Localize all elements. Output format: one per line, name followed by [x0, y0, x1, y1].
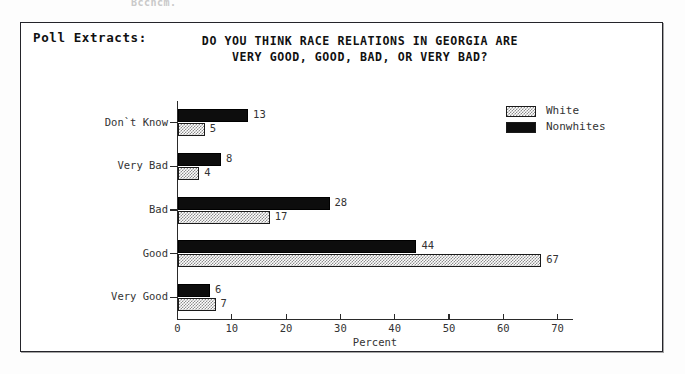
x-axis-tick: [340, 314, 341, 319]
legend-label-white: White: [546, 104, 579, 117]
bar-white: [178, 254, 542, 267]
legend-swatch-white-icon: [506, 106, 536, 117]
legend-label-nonwhites: Nonwhites: [546, 120, 606, 133]
bar-value-label-nonwhites: 8: [226, 152, 232, 164]
x-axis-tick: [557, 314, 558, 319]
x-axis-tick-label: 30: [334, 322, 347, 334]
bar-nonwhites: [178, 240, 417, 253]
bar-nonwhites: [178, 197, 330, 210]
bar-value-label-nonwhites: 6: [215, 283, 221, 295]
bar-nonwhites: [178, 109, 249, 122]
y-axis-tick: [170, 166, 177, 167]
bar-value-label-nonwhites: 13: [253, 108, 266, 120]
bar-value-label-nonwhites: 44: [421, 239, 434, 251]
legend-swatch-nonwhites-icon: [506, 122, 536, 133]
x-axis-tick: [394, 314, 395, 319]
bar-value-label-white: 67: [546, 253, 559, 265]
y-axis-tick: [170, 209, 177, 210]
bar-value-label-white: 5: [210, 122, 216, 134]
y-axis-tick-label: Very Bad: [117, 159, 168, 171]
y-axis-tick-label: Bad: [149, 203, 168, 215]
bar-value-label-white: 17: [275, 210, 288, 222]
x-axis-title: Percent: [177, 336, 573, 348]
y-axis-tick-label: Don`t Know: [105, 116, 168, 128]
y-axis-tick-label: Very Good: [111, 290, 168, 302]
x-axis-tick: [231, 314, 232, 319]
y-axis-tick: [170, 253, 177, 254]
y-axis-tick-label: Good: [143, 247, 168, 259]
x-axis-tick-label: 60: [497, 322, 510, 334]
bar-chart-plot: Percent 010203040506070Very Good67Good44…: [0, 0, 685, 374]
x-axis-tick: [448, 314, 449, 319]
bar-value-label-white: 7: [221, 297, 227, 309]
x-axis-tick-label: 40: [388, 322, 401, 334]
bar-white: [178, 123, 205, 136]
bar-white: [178, 211, 270, 224]
y-axis-tick: [170, 122, 177, 123]
x-axis-tick-label: 70: [551, 322, 564, 334]
y-axis-tick: [170, 297, 177, 298]
bar-white: [178, 298, 216, 311]
x-axis-tick-label: 50: [443, 322, 456, 334]
x-axis-line: [177, 319, 573, 320]
bar-nonwhites: [178, 153, 221, 166]
figure-page: Bccncm. Poll Extracts: DO YOU THINK RACE…: [0, 0, 685, 374]
bar-white: [178, 167, 200, 180]
x-axis-tick: [286, 314, 287, 319]
bar-value-label-white: 4: [204, 166, 210, 178]
bar-value-label-nonwhites: 28: [335, 196, 348, 208]
x-axis-tick-label: 0: [174, 322, 180, 334]
x-axis-tick: [177, 314, 178, 319]
x-axis-tick-label: 20: [280, 322, 293, 334]
x-axis-tick-label: 10: [225, 322, 238, 334]
bar-nonwhites: [178, 284, 211, 297]
x-axis-tick: [503, 314, 504, 319]
